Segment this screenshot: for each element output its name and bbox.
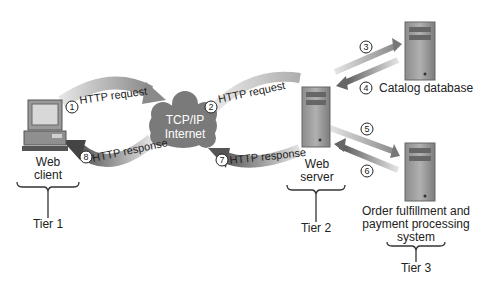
web-server-label: Web server	[294, 158, 340, 184]
catalog-database-label: Catalog database	[379, 82, 473, 95]
order-system-label-line3: system	[356, 231, 476, 244]
web-server-icon	[302, 87, 330, 147]
internet-label-line2: Internet	[165, 127, 206, 141]
tier-3-label: Tier 3	[393, 262, 439, 275]
step-2-badge: 2	[205, 101, 217, 113]
web-server-label-line2: server	[294, 171, 340, 184]
web-client-computer-icon	[22, 100, 68, 151]
step-6-badge: 6	[361, 165, 373, 177]
step-4-badge: 4	[360, 82, 372, 94]
web-client-label: Web client	[30, 156, 66, 182]
svg-text:7: 7	[219, 155, 224, 165]
order-system-label: Order fulfillment and payment processing…	[356, 205, 476, 244]
svg-text:1: 1	[69, 102, 74, 112]
tier-3-brace	[387, 242, 445, 262]
tier-1-label: Tier 1	[25, 218, 71, 231]
svg-text:2: 2	[208, 102, 213, 112]
step-1-badge: 1	[66, 101, 78, 113]
step-7-badge: 7	[216, 154, 228, 166]
step-5-badge: 5	[361, 123, 373, 135]
step-3-badge: 3	[360, 41, 372, 53]
svg-text:4: 4	[363, 83, 368, 93]
svg-text:5: 5	[364, 124, 369, 134]
web-client-label-line2: client	[30, 169, 66, 182]
svg-text:6: 6	[364, 166, 369, 176]
tier-1-brace	[17, 182, 79, 218]
order-processing-server-icon	[405, 143, 435, 201]
svg-text:8: 8	[83, 152, 88, 162]
internet-label-line1: TCP/IP	[166, 113, 205, 127]
svg-text:3: 3	[363, 42, 368, 52]
tier-2-brace	[287, 185, 345, 222]
tier-2-label: Tier 2	[293, 222, 339, 235]
catalog-database-server-icon	[405, 22, 435, 80]
